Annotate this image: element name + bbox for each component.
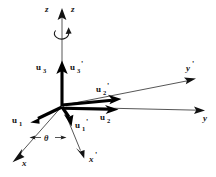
x-prime-axis-label-prime: ' [95,151,97,160]
u1-prime-label: u [75,120,80,130]
u1-prime-label-group: u 1 ' [75,118,88,132]
vector-diagram-figure: z z u 3 u 3 ' y ' u 2 ' u 2 y [0,0,216,177]
u3-prime-label: u [70,62,75,72]
u3-vector [56,61,67,107]
u2-label: u [100,112,105,122]
u1-prime-label-subscript: 1 [82,125,85,132]
rotation-arrowhead [66,27,72,34]
x-axis-label: x [21,158,27,168]
rotation-arc-group [54,27,71,39]
u1-vector-arrowhead [30,116,43,124]
u1-label-group: u 1 [12,115,22,127]
u2-prime-label-subscript: 2 [103,89,106,96]
u1-vector [30,107,62,124]
y-prime-axis [64,78,196,105]
u3-label-subscript: 3 [43,67,47,74]
u2-vector [62,105,119,114]
u3-prime-label-group: u 3 ' [70,60,83,74]
u3-label-group: u 3 [36,62,47,74]
u2-label-subscript: 2 [107,117,110,124]
u3-prime-label-prime: ' [81,60,83,69]
y-prime-axis-line [64,81,189,106]
z-axis-label: z [44,4,49,14]
y-prime-axis-label: y [185,63,191,73]
diagram-canvas: z z u 3 u 3 ' y ' u 2 ' u 2 y [0,0,216,177]
u2-vector-shaft [62,108,109,109]
u3-label: u [36,62,41,72]
u2-prime-label-prime: ' [107,82,109,91]
y-axis-label: y [202,113,208,123]
u2-prime-label-group: u 2 ' [96,82,109,96]
x-prime-label-group: x ' [88,151,97,164]
u1-label-subscript: 1 [19,120,22,127]
y-prime-label-group: y ' [185,60,194,73]
x-axis-line [19,109,60,156]
x-prime-axis-label: x [88,154,94,164]
x-axis [13,109,60,162]
u2-prime-label: u [96,84,101,94]
u2-label-group: u 2 [100,112,110,124]
theta-label: θ [44,133,49,143]
u2-prime-vector-shaft [62,100,112,105]
u1-prime-label-prime: ' [86,118,88,127]
y-prime-axis-label-prime: ' [192,60,194,69]
u1-vector-shaft [38,107,62,119]
u1-label: u [12,115,17,125]
z-prime-axis-label: z [70,4,75,14]
